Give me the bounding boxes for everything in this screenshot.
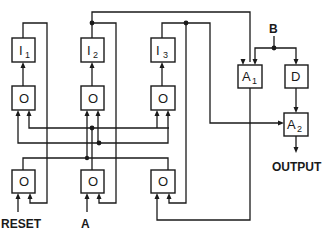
svg-text:I: I [87, 43, 91, 58]
block-a1: A 1 [238, 65, 262, 88]
junction-dot [184, 21, 189, 26]
svg-text:A: A [287, 117, 296, 132]
junction-dot [90, 126, 95, 131]
svg-text:I: I [19, 43, 23, 58]
junction-dot [90, 21, 95, 26]
svg-text:D: D [291, 69, 300, 84]
svg-text:2: 2 [297, 124, 302, 134]
junction-dot [85, 156, 89, 160]
block-a2: A 2 [284, 113, 308, 136]
input-b-label: B [269, 22, 278, 36]
svg-text:O: O [158, 174, 168, 189]
junction-dot [272, 46, 277, 51]
block-o-top-2: O [81, 86, 104, 110]
svg-text:1: 1 [252, 76, 257, 86]
svg-text:O: O [158, 91, 168, 106]
input-a-label: A [81, 217, 90, 231]
svg-text:O: O [19, 91, 29, 106]
block-i1: I 1 [12, 38, 35, 62]
block-d: D [285, 65, 308, 88]
block-i2: I 2 [81, 38, 104, 62]
output-label: OUTPUT [272, 160, 322, 174]
svg-text:A: A [242, 69, 251, 84]
block-o-top-1: O [12, 86, 35, 110]
block-o-bottom-1: O [12, 170, 35, 193]
svg-text:O: O [19, 174, 29, 189]
block-o-top-3: O [151, 86, 175, 110]
svg-text:3: 3 [163, 50, 168, 60]
reset-label: RESET [1, 217, 42, 231]
block-i3: I 3 [151, 38, 175, 62]
block-o-bottom-2: O [81, 170, 104, 193]
junctions [85, 21, 277, 161]
svg-text:O: O [88, 174, 98, 189]
junction-dot [97, 141, 102, 146]
block-o-bottom-3: O [151, 170, 175, 193]
svg-text:2: 2 [93, 50, 98, 60]
svg-text:I: I [156, 43, 160, 58]
logic-diagram: I 1 I 2 I 3 O O O O O O A 1 D [0, 0, 325, 235]
svg-text:O: O [88, 91, 98, 106]
svg-text:1: 1 [25, 50, 30, 60]
